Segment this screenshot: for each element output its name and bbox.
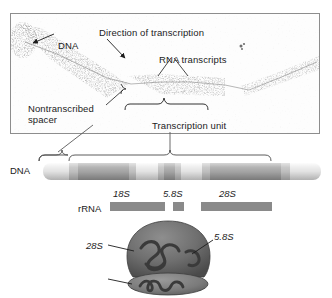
ribosome-label-28s: 28S (86, 240, 103, 251)
ribosome-18s-leader (108, 279, 132, 284)
ribosome-label-58s: 5.8S (214, 231, 234, 242)
ribosome-diagram (0, 0, 332, 298)
ribosome-large-subunit (127, 221, 210, 277)
rrna-transcription-figure: DNA Direction of transcription RNA trans… (0, 0, 332, 298)
